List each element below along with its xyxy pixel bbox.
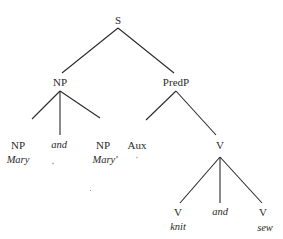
leaf-mary: Mary xyxy=(7,155,30,166)
node-v-conjunct-1: V xyxy=(174,207,182,218)
tree-edges xyxy=(0,0,283,239)
leaf-mary-prime: Mary' xyxy=(93,155,118,166)
edge-np-np1 xyxy=(32,91,60,119)
scan-speck xyxy=(90,190,91,191)
node-np-conjunct-1: NP xyxy=(11,140,25,151)
leaf-knit: knit xyxy=(170,222,186,233)
node-aux: Aux xyxy=(128,140,147,151)
edge-v-v1 xyxy=(180,157,220,203)
edge-s-predp xyxy=(118,28,174,73)
leaf-sew: sew xyxy=(257,223,273,234)
node-v: V xyxy=(216,140,224,151)
node-np-and: and xyxy=(51,140,67,151)
node-predp: PredP xyxy=(163,77,189,88)
edge-predp-v xyxy=(176,91,216,135)
edge-s-np xyxy=(62,28,118,73)
edge-v-v2 xyxy=(220,157,262,203)
node-s: S xyxy=(115,15,121,26)
syntax-tree-diagram: S NP PredP NP and NP Aux V Mary Mary' V … xyxy=(0,0,283,239)
node-v-conjunct-2: V xyxy=(259,207,267,218)
node-np-conjunct-2: NP xyxy=(96,140,110,151)
node-v-and: and xyxy=(212,207,228,218)
edge-np-np2 xyxy=(60,91,100,118)
node-np: NP xyxy=(53,77,67,88)
edge-predp-aux xyxy=(146,91,176,120)
